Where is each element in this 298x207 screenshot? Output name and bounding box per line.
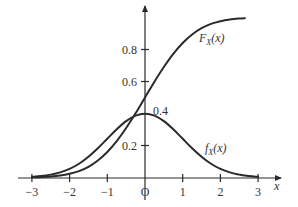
x-tick-label: 3 [255, 185, 261, 199]
pdf-label: fX(x) [205, 141, 227, 157]
x-tick-label: O [141, 185, 150, 199]
x-tick-label: −2 [63, 185, 76, 199]
chart: −3−2−1O123 0.20.60.8 x 0.4 FX(x) fX(x) [0, 0, 298, 207]
x-tick-label: −3 [26, 185, 39, 199]
peak-annotation: 0.4 [153, 104, 168, 118]
y-tick-label: 0.8 [122, 43, 137, 57]
x-tick-label: −1 [101, 185, 114, 199]
cdf-label: FX(x) [198, 31, 225, 47]
y-tick-label: 0.6 [122, 75, 137, 89]
x-axis-label: x [273, 179, 280, 193]
x-tick-label: 1 [180, 185, 186, 199]
y-tick-label: 0.2 [122, 139, 137, 153]
x-tick-label: 2 [217, 185, 223, 199]
